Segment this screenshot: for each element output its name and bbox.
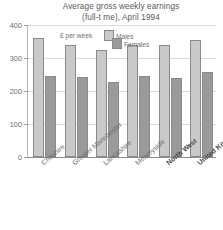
bar-female[interactable] bbox=[139, 76, 150, 158]
legend-label-females: Females bbox=[124, 41, 149, 48]
chart-title-line1: Average gross weekly earnings bbox=[63, 2, 180, 11]
y-axis-tick bbox=[24, 91, 28, 92]
y-axis-tick bbox=[24, 157, 28, 158]
gridline bbox=[28, 25, 216, 26]
y-axis-tick bbox=[24, 25, 28, 26]
bar-female[interactable] bbox=[77, 77, 88, 157]
legend-swatch-females-icon bbox=[112, 38, 122, 49]
bar-group bbox=[33, 25, 56, 157]
bar-female[interactable] bbox=[171, 78, 182, 157]
y-axis-tick-label: 100 bbox=[10, 120, 22, 129]
y-axis-tick-label: 300 bbox=[10, 54, 22, 63]
bar-male[interactable] bbox=[33, 38, 44, 157]
y-axis-tick-label: 400 bbox=[10, 21, 22, 30]
chart-container: Average gross weekly earnings (full-t me… bbox=[0, 0, 223, 230]
bar-group bbox=[65, 25, 88, 157]
chart-subtitle: (full-t me), April 1994 bbox=[22, 13, 220, 24]
legend-units-label: £ per week bbox=[60, 32, 92, 39]
y-axis-tick bbox=[24, 124, 28, 125]
y-axis-tick-label: 0 bbox=[18, 153, 22, 162]
bar-male[interactable] bbox=[65, 45, 76, 157]
gridline bbox=[28, 91, 216, 92]
bar-female[interactable] bbox=[202, 72, 213, 157]
y-axis-tick-label: 200 bbox=[10, 87, 22, 96]
bar-female[interactable] bbox=[108, 82, 119, 157]
gridline bbox=[28, 58, 216, 59]
legend-entry-females: Females bbox=[112, 38, 149, 49]
chart-title: Average gross weekly earnings (full-t me… bbox=[22, 2, 220, 23]
y-axis-tick bbox=[24, 58, 28, 59]
bar-female[interactable] bbox=[45, 76, 56, 158]
bar-group bbox=[159, 25, 182, 157]
